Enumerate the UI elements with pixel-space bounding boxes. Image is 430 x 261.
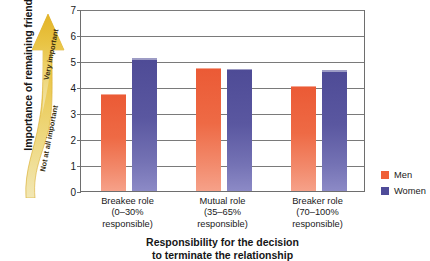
y-tick-label: 2 xyxy=(70,135,76,146)
bar-highlight xyxy=(322,70,347,72)
y-tick-label: 6 xyxy=(70,31,76,42)
bar-men-2 xyxy=(196,68,221,192)
plot-area: 01234567 xyxy=(80,10,365,192)
bar-highlight xyxy=(291,86,316,88)
bar-chart-figure: Importance of remaining friends Very imp… xyxy=(0,0,430,261)
x-tick-label-1: Breakee role(0–30%responsible) xyxy=(75,196,181,230)
y-tick-label: 7 xyxy=(70,5,76,16)
legend-swatch-icon xyxy=(381,171,389,179)
legend-item-women[interactable]: Women xyxy=(381,184,426,198)
bar-men-3 xyxy=(291,86,316,191)
legend-swatch-icon xyxy=(381,187,389,195)
bar-highlight xyxy=(227,69,252,71)
x-tick-label-line: Breakee role xyxy=(75,196,181,207)
y-tick-label: 1 xyxy=(70,161,76,172)
bar-men-1 xyxy=(101,94,126,192)
legend-label: Women xyxy=(394,186,426,196)
bar-highlight xyxy=(132,58,157,60)
x-tick-label-3: Breaker role(70–100%responsible) xyxy=(265,196,371,230)
legend-label: Men xyxy=(394,170,412,180)
legend: MenWomen xyxy=(381,168,426,200)
x-axis-title-line2: to terminate the relationship xyxy=(80,249,365,261)
x-axis-title-line1: Responsibility for the decision xyxy=(80,236,365,249)
y-tick-label: 3 xyxy=(70,109,76,120)
y-tick-label: 5 xyxy=(70,57,76,68)
importance-arrow: Very important Not at all important xyxy=(24,2,70,198)
x-tick-label-line: (70–100% xyxy=(265,207,371,218)
bar-group xyxy=(271,10,366,191)
bar-group xyxy=(176,10,271,191)
bar-group xyxy=(81,10,176,191)
x-axis-title: Responsibility for the decision to termi… xyxy=(80,236,365,261)
x-tick-label-line: responsible) xyxy=(265,219,371,230)
bars-layer xyxy=(81,10,364,191)
x-tick-label-line: (0–30% xyxy=(75,207,181,218)
bar-women-2 xyxy=(227,69,252,191)
x-tick-label-line: (35–65% xyxy=(170,207,276,218)
legend-item-men[interactable]: Men xyxy=(381,168,426,182)
bar-highlight xyxy=(196,68,221,70)
x-tick-label-line: Mutual role xyxy=(170,196,276,207)
x-tick-label-line: Breaker role xyxy=(265,196,371,207)
bar-women-3 xyxy=(322,70,347,191)
x-tick-label-2: Mutual role(35–65%responsible) xyxy=(170,196,276,230)
bar-women-1 xyxy=(132,58,157,191)
x-tick-label-line: responsible) xyxy=(170,219,276,230)
x-tick-label-line: responsible) xyxy=(75,219,181,230)
y-tick-label: 4 xyxy=(70,83,76,94)
y-tick-mark xyxy=(77,192,81,193)
bar-highlight xyxy=(101,94,126,96)
